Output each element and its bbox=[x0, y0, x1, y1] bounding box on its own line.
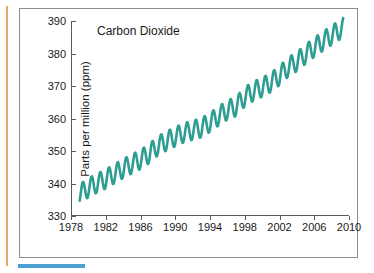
x-tick-2006 bbox=[314, 216, 315, 220]
plot-area: Carbon Dioxide Parts per million (ppm) 3… bbox=[71, 21, 349, 216]
x-tick-label-1990: 1990 bbox=[163, 222, 187, 233]
x-tick-label-1994: 1994 bbox=[198, 222, 222, 233]
y-tick-label-390: 390 bbox=[48, 16, 66, 27]
figure-frame: Carbon Dioxide Parts per million (ppm) 3… bbox=[19, 8, 358, 258]
x-tick-1998 bbox=[245, 216, 246, 220]
x-tick-label-2002: 2002 bbox=[267, 222, 291, 233]
y-tick-label-340: 340 bbox=[48, 178, 66, 189]
y-tick-label-360: 360 bbox=[48, 113, 66, 124]
x-tick-label-2010: 2010 bbox=[337, 222, 361, 233]
y-tick-330 bbox=[72, 216, 76, 217]
x-tick-label-2006: 2006 bbox=[302, 222, 326, 233]
x-tick-1990 bbox=[175, 216, 176, 220]
y-tick-label-380: 380 bbox=[48, 48, 66, 59]
decorative-left-rule bbox=[6, 6, 8, 266]
decorative-bottom-rule bbox=[18, 264, 85, 268]
y-tick-label-370: 370 bbox=[48, 81, 66, 92]
y-tick-label-350: 350 bbox=[48, 146, 66, 157]
x-tick-label-1978: 1978 bbox=[59, 222, 83, 233]
x-tick-1978 bbox=[71, 216, 72, 220]
x-tick-2010 bbox=[349, 216, 350, 220]
x-tick-label-1986: 1986 bbox=[128, 222, 152, 233]
x-tick-label-1998: 1998 bbox=[233, 222, 257, 233]
x-tick-2002 bbox=[280, 216, 281, 220]
x-tick-label-1982: 1982 bbox=[94, 222, 118, 233]
x-tick-1982 bbox=[106, 216, 107, 220]
x-tick-1994 bbox=[210, 216, 211, 220]
data-series-line bbox=[71, 21, 349, 216]
x-tick-1986 bbox=[141, 216, 142, 220]
y-tick-label-330: 330 bbox=[48, 211, 66, 222]
